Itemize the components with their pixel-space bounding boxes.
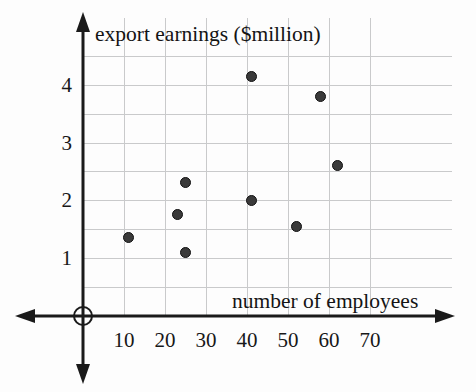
x-axis-tick-label: 60 <box>319 330 340 351</box>
x-axis-tick-label: 70 <box>360 330 381 351</box>
data-point <box>246 71 257 82</box>
x-axis-arrow-left-icon <box>15 309 35 323</box>
x-axis-arrow-right-icon <box>435 309 455 323</box>
x-axis-tick-label: 40 <box>237 330 258 351</box>
data-point <box>172 209 183 220</box>
x-axis-tick-label: 50 <box>278 330 299 351</box>
x-axis-tick-label: 20 <box>155 330 176 351</box>
y-axis-arrow-down-icon <box>76 364 90 384</box>
y-axis-title: export earnings ($million) <box>95 24 321 46</box>
y-axis-tick-label: 1 <box>50 248 72 269</box>
data-point <box>180 247 191 258</box>
y-axis-arrow-up-icon <box>76 12 90 32</box>
y-axis-tick-label: 4 <box>50 74 72 95</box>
y-axis-tick-label: 3 <box>50 132 72 153</box>
x-axis-tick-label: 10 <box>114 330 135 351</box>
x-axis-tick-label: 30 <box>196 330 217 351</box>
x-axis-title: number of employees <box>232 291 418 313</box>
data-point <box>332 160 343 171</box>
data-point <box>291 221 302 232</box>
data-point <box>246 195 257 206</box>
y-axis-tick-label: 2 <box>50 190 72 211</box>
data-point <box>123 232 134 243</box>
scatter-plot-figure: export earnings ($million) number of emp… <box>0 0 476 392</box>
